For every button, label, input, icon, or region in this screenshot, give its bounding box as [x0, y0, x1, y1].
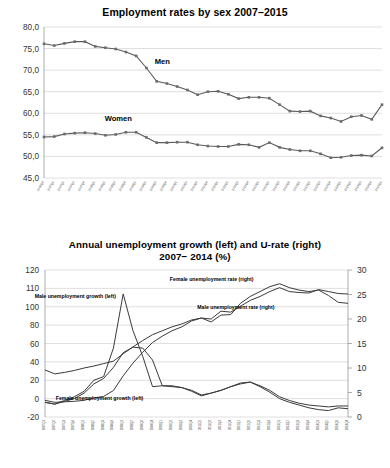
data-point-marker [319, 153, 322, 156]
y-axis-tick-label: 75,0 [23, 45, 39, 54]
data-point-marker [135, 131, 138, 134]
x-axis-tick-label: 2012Q3 [271, 180, 280, 192]
x-axis-tick-label: 2009Q4 [159, 180, 168, 192]
data-point-marker [155, 141, 158, 144]
data-point-marker [114, 133, 117, 136]
series-line [45, 294, 348, 407]
y-axis-left-tick-label: 80 [30, 321, 40, 330]
x-axis-tick-label: 2010Q3 [190, 180, 199, 192]
data-point-marker [268, 97, 271, 100]
x-axis-tick-label: 2014Q1 [316, 420, 320, 431]
data-point-marker [73, 40, 76, 43]
x-axis-tick-label: 2009Q3 [149, 180, 158, 192]
data-point-marker [289, 110, 292, 113]
data-point-marker [299, 150, 302, 153]
y-axis-left-tick-label: 120 [25, 266, 39, 275]
y-axis-right-tick-label: 30 [357, 265, 367, 275]
x-axis-tick-label: 2008Q4 [118, 180, 127, 192]
data-point-marker [248, 143, 251, 146]
data-point-marker [340, 120, 343, 123]
y-axis-tick-label: 50,0 [23, 152, 39, 161]
x-axis-tick-label: 2014Q3 [335, 420, 339, 431]
x-axis-tick-label: 2013Q2 [286, 420, 290, 431]
data-point-marker [196, 93, 199, 96]
data-point-marker [309, 110, 312, 113]
y-axis-right-tick-label: 25 [357, 290, 367, 300]
x-axis-tick-label: 2012Q4 [282, 180, 291, 192]
unemployment-figure: Annual unemployment growth (left) and U-… [0, 232, 390, 468]
x-axis-tick-label: 2013Q2 [302, 180, 311, 192]
data-point-marker [104, 46, 107, 49]
data-point-marker [350, 115, 353, 118]
data-point-marker [63, 133, 66, 136]
data-point-marker [370, 118, 373, 121]
x-axis-tick-label: 2014Q2 [325, 420, 329, 431]
annotation-label: Men [155, 57, 171, 66]
data-point-marker [360, 114, 363, 117]
data-point-marker [73, 132, 76, 135]
x-axis-tick-label: 2013Q1 [277, 420, 281, 431]
x-axis-tick-label: 2011Q1 [210, 180, 219, 192]
x-axis-tick-label: 2014Q3 [353, 180, 362, 192]
x-axis-tick-label: 2011Q4 [228, 420, 232, 430]
x-axis-tick-label: 2011Q3 [218, 420, 222, 430]
data-point-marker [217, 145, 220, 148]
x-axis-tick-label: 2009Q1 [120, 420, 124, 431]
y-axis-right-tick-label: 10 [357, 363, 367, 373]
y-axis-tick-label: 45,0 [23, 174, 39, 183]
y-axis-left-tick-label: 100 [25, 303, 39, 312]
x-axis-tick-label: 2012Q1 [251, 180, 260, 192]
data-point-marker [268, 141, 271, 144]
x-axis-tick-label: 2011Q3 [231, 180, 240, 192]
x-axis-tick-label: 2013Q4 [306, 420, 310, 431]
x-axis-tick-label: 2008Q2 [97, 180, 106, 192]
data-point-marker [350, 154, 353, 157]
chart-title-employment: Employment rates by sex 2007–2015 [0, 0, 390, 18]
x-axis-tick-label: 2012Q1 [237, 420, 241, 431]
y-axis-left-tick-label: -20 [27, 413, 39, 422]
data-point-marker [94, 132, 97, 135]
series-line-women [44, 132, 382, 157]
data-point-marker [63, 42, 66, 45]
x-axis-tick-label: 2009Q4 [150, 420, 154, 431]
data-point-marker [114, 48, 117, 51]
employment-rates-figure: Employment rates by sex 2007–2015 80,075… [0, 0, 390, 232]
y-axis-left-tick-label: 40 [30, 358, 40, 367]
x-axis-tick-label: 2009Q1 [128, 180, 137, 192]
x-axis-tick-label: 2008Q3 [108, 180, 117, 192]
x-axis-tick-label: 2008Q1 [87, 180, 96, 192]
x-axis-tick-label: 2011Q4 [241, 180, 250, 192]
data-point-marker [329, 117, 332, 120]
data-point-marker [186, 141, 189, 144]
x-axis-tick-label: 2007Q4 [71, 420, 75, 431]
x-axis-tick-label: 2010Q2 [179, 180, 188, 192]
y-axis-right-tick-label: 15 [357, 339, 367, 349]
y-axis-tick-label: 60,0 [23, 109, 39, 118]
x-axis-tick-label: 2013Q1 [292, 180, 301, 192]
x-axis-tick-label: 2010Q1 [169, 180, 178, 192]
x-axis-tick-label: 2014Q2 [343, 180, 352, 192]
data-point-marker [125, 51, 128, 54]
data-point-marker [227, 145, 230, 148]
data-point-marker [43, 136, 46, 139]
chart-title-unemployment-line2: 2007− 2014 (%) [0, 251, 390, 263]
series-line-men [44, 42, 382, 122]
x-axis-tick-label: 2012Q3 [257, 420, 261, 431]
x-axis-tick-label: 2009Q2 [130, 420, 134, 431]
x-axis-tick-label: 2010Q4 [189, 420, 193, 431]
annotation-label: Male unemployment growth (left) [35, 293, 117, 299]
data-point-marker [258, 146, 261, 149]
data-point-marker [53, 135, 56, 138]
data-point-marker [360, 154, 363, 157]
data-point-marker [166, 82, 169, 85]
data-point-marker [186, 89, 189, 92]
employment-plot-area: 80,075,070,065,060,055,050,045,0MenWomen… [0, 18, 390, 230]
data-point-marker [381, 103, 384, 106]
data-point-marker [278, 103, 281, 106]
data-point-marker [217, 90, 220, 93]
data-point-marker [196, 143, 199, 146]
data-point-marker [289, 148, 292, 151]
chart-title-unemployment-line1: Annual unemployment growth (left) and U-… [0, 232, 390, 251]
x-axis-tick-label: 2013Q3 [296, 420, 300, 431]
unemployment-chart-svg: 120110100806040200-20302520151050Male un… [0, 262, 390, 468]
